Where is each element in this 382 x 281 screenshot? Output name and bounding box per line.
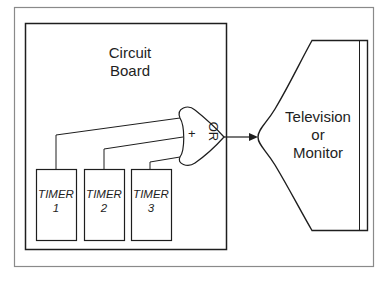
or-gate-plus-symbol: +	[188, 126, 196, 141]
television-label-line3: Monitor	[272, 144, 364, 162]
timer-3-label: TIMER 3	[130, 187, 172, 215]
timer-2-number: 2	[83, 201, 125, 215]
television-label-line1: Television	[272, 108, 364, 126]
timer-1-label: TIMER 1	[35, 187, 77, 215]
timer-2-name: TIMER	[83, 187, 125, 201]
wire-timer-1	[56, 118, 180, 169]
wire-timer-2	[104, 137, 183, 169]
timer-2-label: TIMER 2	[83, 187, 125, 215]
television-label-line2: or	[272, 126, 364, 144]
television-label: Television or Monitor	[272, 108, 364, 162]
timer-1-number: 1	[35, 201, 77, 215]
wire-timer-3	[150, 157, 180, 169]
circuit-board-label: Circuit Board	[80, 44, 180, 80]
board-title-line1: Circuit	[80, 44, 180, 62]
or-gate-label: OR	[206, 122, 221, 142]
arrow-head-icon	[249, 133, 258, 141]
timer-1-name: TIMER	[35, 187, 77, 201]
timer-3-name: TIMER	[130, 187, 172, 201]
timer-3-number: 3	[130, 201, 172, 215]
board-title-line2: Board	[80, 62, 180, 80]
